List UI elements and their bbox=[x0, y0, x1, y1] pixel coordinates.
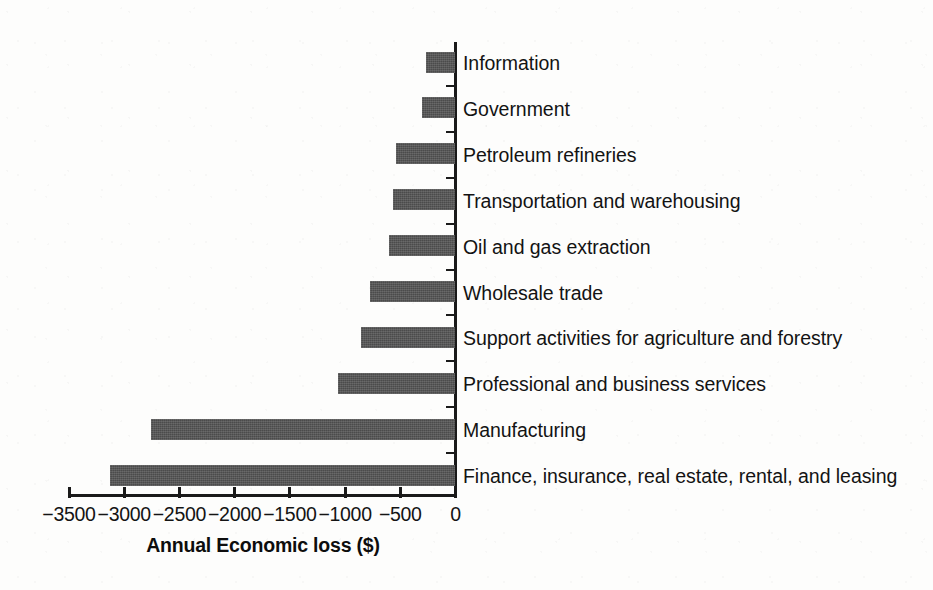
x-tick-label: −2500 bbox=[153, 503, 206, 526]
category-label: Oil and gas extraction bbox=[463, 235, 651, 258]
category-tick bbox=[446, 452, 455, 454]
category-tick bbox=[446, 269, 455, 271]
bar-chart: −3500−3000−2500−2000−1500−1000−5000 Info… bbox=[0, 0, 933, 590]
x-tick bbox=[288, 487, 291, 498]
bar bbox=[338, 373, 455, 394]
x-tick-label: −1000 bbox=[318, 503, 371, 526]
category-label: Petroleum refineries bbox=[463, 143, 637, 166]
bar bbox=[393, 189, 456, 210]
x-tick-label: −2000 bbox=[208, 503, 261, 526]
category-label: Professional and business services bbox=[463, 373, 766, 396]
x-tick-label: −1500 bbox=[263, 503, 316, 526]
x-tick-label: −3000 bbox=[98, 503, 151, 526]
x-tick bbox=[68, 487, 71, 498]
bar bbox=[110, 465, 456, 486]
chart-page: −3500−3000−2500−2000−1500−1000−5000 Info… bbox=[0, 0, 933, 590]
bar bbox=[370, 281, 455, 302]
category-label: Government bbox=[463, 97, 570, 120]
bar bbox=[422, 97, 455, 118]
category-label: Support activities for agriculture and f… bbox=[463, 327, 842, 350]
category-label: Finance, insurance, real estate, rental,… bbox=[463, 465, 897, 488]
x-tick-label: −3500 bbox=[42, 503, 95, 526]
category-label: Transportation and warehousing bbox=[463, 189, 740, 212]
bar bbox=[151, 419, 456, 440]
category-tick bbox=[446, 177, 455, 179]
category-tick bbox=[446, 406, 455, 408]
category-label: Manufacturing bbox=[463, 419, 586, 442]
x-tick-label: 0 bbox=[450, 503, 461, 526]
category-label: Wholesale trade bbox=[463, 281, 603, 304]
bar bbox=[426, 52, 456, 73]
x-tick bbox=[123, 487, 126, 498]
bar bbox=[389, 235, 455, 256]
bar bbox=[396, 143, 456, 164]
category-label: Information bbox=[463, 52, 560, 75]
category-tick bbox=[446, 223, 455, 225]
x-tick bbox=[233, 487, 236, 498]
bar bbox=[361, 327, 456, 348]
x-axis-title: Annual Economic loss ($) bbox=[69, 534, 457, 557]
category-tick bbox=[446, 85, 455, 87]
category-tick bbox=[446, 360, 455, 362]
category-tick bbox=[446, 131, 455, 133]
x-tick-label: −500 bbox=[379, 503, 422, 526]
x-tick bbox=[344, 487, 347, 498]
x-tick bbox=[454, 487, 457, 498]
category-tick bbox=[446, 314, 455, 316]
x-tick bbox=[178, 487, 181, 498]
x-tick bbox=[399, 487, 402, 498]
